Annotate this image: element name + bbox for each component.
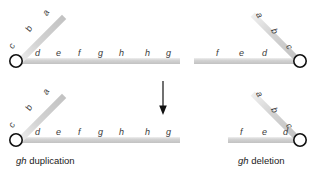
downward-arrow-icon <box>159 81 167 115</box>
diagram-canvas: c b a d e f g h h g a b c f e d c b a d … <box>0 0 315 173</box>
band-label: d <box>35 128 40 137</box>
centromere-icon <box>294 134 306 146</box>
band-label: e <box>56 128 61 137</box>
centromere-icon <box>10 134 22 146</box>
caption-rest-part: duplication <box>27 155 75 166</box>
caption-gh-deletion: gh deletion <box>238 156 285 166</box>
band-label: h <box>145 128 150 137</box>
band-label: e <box>262 128 267 137</box>
chromosome-top-left <box>10 15 180 67</box>
band-label: d <box>262 49 267 58</box>
band-label: d <box>283 128 288 137</box>
chromosome-vector-layer <box>0 0 315 173</box>
band-label: h <box>145 49 150 58</box>
band-label: g <box>98 128 103 137</box>
band-label: g <box>166 128 171 137</box>
band-label: g <box>98 49 103 58</box>
short-arm-bar <box>251 92 300 141</box>
long-arm-bar <box>228 137 297 143</box>
band-label: g <box>166 49 171 58</box>
caption-gh-duplication: gh duplication <box>16 156 75 166</box>
band-label: f <box>78 128 81 137</box>
long-arm-bar <box>20 137 180 143</box>
band-label: d <box>35 49 40 58</box>
band-label: f <box>240 128 243 137</box>
band-label: e <box>239 49 244 58</box>
chromosome-top-right <box>194 13 306 68</box>
chromosome-bottom-right <box>228 92 306 147</box>
band-label: f <box>216 49 219 58</box>
band-label: h <box>119 49 124 58</box>
caption-italic-part: gh <box>238 155 249 166</box>
band-label: e <box>56 49 61 58</box>
short-arm-bar <box>251 13 300 62</box>
long-arm-bar <box>20 58 180 64</box>
centromere-icon <box>10 55 22 67</box>
caption-rest-part: deletion <box>249 155 285 166</box>
band-label: h <box>119 128 124 137</box>
chromosome-bottom-left <box>10 94 180 146</box>
caption-italic-part: gh <box>16 155 27 166</box>
centromere-icon <box>294 55 306 67</box>
band-label: f <box>78 49 81 58</box>
long-arm-bar <box>194 58 297 64</box>
